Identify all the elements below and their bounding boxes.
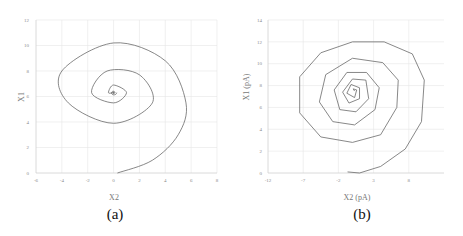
tick-labels-b: 02468101214-12-7-238 [257,18,411,183]
x-tick-label: -2 [336,178,341,183]
y-tick-label: 8 [27,69,30,74]
axes-b [268,20,444,173]
y-tick-label: 12 [24,18,30,23]
x-tick-label: 4 [164,178,167,183]
x-tick-label: -7 [301,178,306,183]
x-axis-title-b: X2 (pA) [344,193,371,202]
x-tick-label: -4 [60,178,65,183]
y-axis-title-b: X1 (pA) [242,73,251,100]
panel-a: 024681012-6-4-202468 X2 X1 (a) [17,18,219,223]
x-tick-label: -6 [34,178,39,183]
y-tick-label: 4 [27,120,30,125]
panel-b: 02468101214-12-7-238 X2 (pA) X1 (pA) (b) [242,18,444,223]
y-tick-label: 0 [260,171,263,176]
x-tick-label: 3 [372,178,375,183]
x-tick-label: -12 [265,178,272,183]
spiral-curve-a [58,43,186,173]
y-tick-label: 2 [27,145,30,150]
x-tick-label: 0 [112,178,115,183]
y-tick-label: 4 [260,127,263,132]
y-tick-label: 8 [260,83,263,88]
y-tick-label: 6 [27,94,30,99]
x-tick-label: 6 [190,178,193,183]
y-tick-label: 10 [257,61,263,66]
y-tick-label: 0 [27,171,30,176]
x-tick-label: -2 [86,178,91,183]
y-tick-label: 10 [24,43,30,48]
y-tick-label: 6 [260,105,263,110]
y-tick-label: 2 [260,149,263,154]
x-tick-label: 2 [138,178,141,183]
x-axis-title-a: X2 [109,193,119,202]
x-tick-label: 8 [408,178,411,183]
y-tick-label: 14 [257,18,263,23]
gridlines-b [268,20,444,173]
y-axis-title-a: X1 [17,92,26,102]
x-tick-label: 8 [216,178,219,183]
panel-label-a: (a) [107,206,124,223]
y-tick-label: 12 [257,40,263,45]
panel-label-b: (b) [353,206,371,223]
figure: 024681012-6-4-202468 X2 X1 (a) 024681012… [0,0,463,236]
